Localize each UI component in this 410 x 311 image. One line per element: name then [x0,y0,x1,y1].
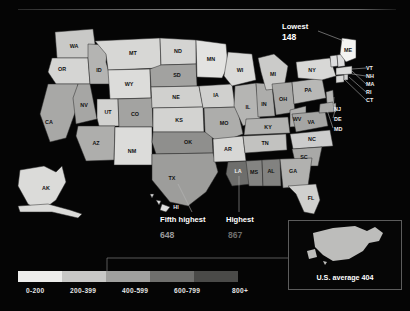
state-label-DE: DE [334,116,342,122]
state-label-CT: CT [366,97,374,103]
state-MA [336,66,352,75]
state-AL [262,159,281,186]
legend-label-1: 200-399 [70,287,96,294]
state-AK-aleutians [18,204,82,218]
legend-swatch-4 [194,271,238,282]
state-OR [48,58,90,84]
state-label-MA: MA [366,81,374,87]
leader-lowest [318,31,344,41]
inset-us-shape [313,226,383,261]
state-CO [118,98,153,127]
state-label-MD: MD [334,126,342,132]
callout-highest-value: 867 [228,230,242,240]
legend-label-2: 400-599 [122,287,148,294]
us-choropleth-map: WA OR CA NV ID MT WY UT AZ CO NM ND SD N… [0,14,410,219]
state-WY [108,69,151,99]
callout-lowest-label: Lowest [282,22,309,31]
us-average-inset: U.S. average 404 [288,220,402,290]
state-PA [292,78,326,104]
state-AZ [76,126,115,161]
state-label-VT: VT [366,65,374,71]
header-divider [18,9,396,10]
leader-RI [349,77,366,92]
callout-fifth-highest-value: 648 [160,230,174,240]
state-label-RI: RI [366,89,372,95]
legend-swatch-1 [62,271,106,282]
legend-label-4: 800+ [232,287,248,294]
state-CA [40,84,78,142]
state-NC [290,130,333,149]
state-shapes [18,29,356,218]
state-NE [151,86,203,108]
legend: 0-200 200-399 400-599 600-799 800+ [18,271,268,299]
leader-MA [352,71,366,84]
state-MN [196,40,228,78]
legend-labels: 0-200 200-399 400-599 600-799 800+ [18,287,268,299]
state-KS [153,107,204,132]
callout-fifth-highest-label: Fifth highest [160,215,206,224]
inset-hawaii-shape [323,261,327,265]
state-NY [296,58,336,80]
state-RI [344,74,348,80]
map-svg: WA OR CA NV ID MT WY UT AZ CO NM ND SD N… [0,14,410,219]
callout-lowest: Lowest 148 [282,22,344,42]
state-KY [244,117,290,135]
inset-map-svg [289,221,401,269]
state-label-HI: HI [173,204,179,210]
legend-swatch-2 [106,271,150,282]
leader-NH [352,74,366,76]
state-NV [73,84,97,124]
state-FL [288,184,320,214]
state-WI [224,52,256,86]
state-GA [280,158,312,188]
leader-VT [352,68,366,69]
legend-label-3: 600-799 [174,287,200,294]
state-UT [97,99,119,126]
legend-swatch-0 [18,271,62,282]
state-MD [319,102,334,113]
state-label-NH: NH [366,73,374,79]
state-IA [199,84,235,108]
legend-label-0: 0-200 [26,287,44,294]
legend-gradient-bar [18,271,238,282]
state-TN [243,134,287,153]
state-SD [150,64,197,87]
state-label-NJ: NJ [334,106,341,112]
map-figure: WA OR CA NV ID MT WY UT AZ CO NM ND SD N… [0,0,410,311]
state-AR [213,136,246,162]
state-NM [114,127,152,165]
inset-alaska-shape [307,249,317,259]
state-MS [246,160,263,186]
legend-swatch-3 [150,271,194,282]
state-ND [160,38,196,65]
callout-highest-label: Highest [226,215,254,224]
state-CT [336,75,344,83]
callout-lowest-value: 148 [282,32,297,42]
state-OK [152,132,213,154]
inset-average-label: U.S. average 404 [289,273,401,282]
state-VT [330,55,338,67]
state-VA [292,111,328,132]
